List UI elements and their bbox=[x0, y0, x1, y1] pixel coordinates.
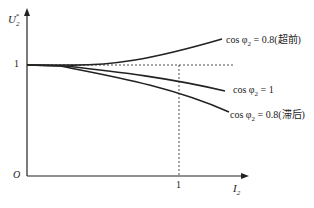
curve-lagging bbox=[27, 65, 229, 112]
y-axis-label: U2* bbox=[8, 12, 19, 28]
x-tick-1: 1 bbox=[176, 179, 181, 190]
curve-unity bbox=[27, 65, 225, 91]
curve-leading bbox=[27, 39, 222, 65]
x-axis-label: I2 bbox=[233, 182, 240, 197]
x-axis-arrow-icon bbox=[241, 173, 249, 179]
y-axis-arrow-icon bbox=[24, 8, 30, 16]
y-tick-1: 1 bbox=[14, 58, 19, 69]
origin-label: O bbox=[13, 169, 20, 180]
legend-leading: cos φ2 = 0.8(超前) bbox=[226, 31, 301, 48]
legend-unity: cos φ2 = 1 bbox=[233, 84, 274, 98]
legend-lagging: cos φ2 = 0.8(滞后) bbox=[230, 106, 305, 123]
